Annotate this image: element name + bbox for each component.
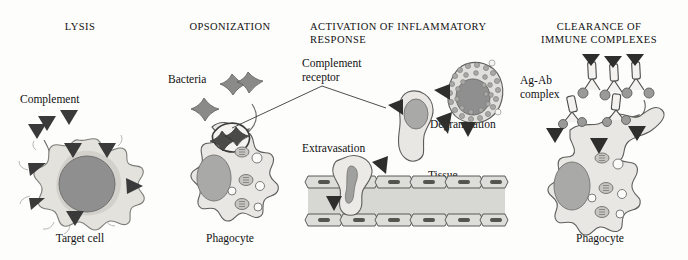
bacteria-icons [191,72,263,121]
panel-clearance: CLEARANCE OF IMMUNE COMPLEXES Ag-Ab comp… [510,0,688,260]
target-cell-nucleus [59,156,115,212]
panel-lysis: LYSIS Complement Target cell [0,0,160,260]
opsonization-illustration [160,0,300,260]
endothelium-bottom [305,214,508,226]
ag-ab-complex-bound [564,94,624,122]
panel-opsonization: OPSONIZATION Bacteria Phagocyte [160,0,300,260]
lysis-illustration [0,0,160,260]
activated-cell-nucleus [404,99,428,129]
clearance-illustration [510,0,688,260]
panel-activation: ACTIVATION OF INFLAMMATORY RESPONSE Comp… [300,0,510,260]
activation-illustration [300,0,510,260]
phagocyte-nucleus-opsonization [197,155,231,201]
complement-free-icons [28,110,78,139]
figure-canvas: LYSIS Complement Target cell [0,0,688,260]
phagocyte-nucleus-clearance [554,162,590,210]
